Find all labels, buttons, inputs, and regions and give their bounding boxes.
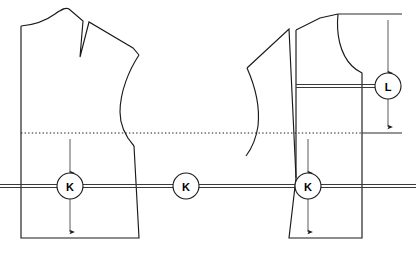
right-bodice-rotated-armhole-curve: [246, 68, 258, 156]
left-bodice-armhole-curve: [120, 55, 139, 146]
right-bodice-upper-outline: [296, 14, 338, 178]
callout-label-k-center: K: [182, 181, 190, 193]
left-bodice-upper-outline: [21, 8, 139, 133]
left-bodice-piece: [21, 8, 139, 238]
callout-l-right[interactable]: L: [375, 73, 401, 99]
callout-k-center[interactable]: K: [173, 173, 199, 199]
l-leader-line: [296, 85, 375, 88]
callout-k-left[interactable]: K: [57, 173, 83, 199]
callout-label-l-right: L: [385, 81, 392, 93]
callout-label-k-right: K: [304, 181, 312, 193]
callout-k-right[interactable]: K: [295, 173, 321, 199]
right-bodice-piece: [246, 14, 362, 238]
pattern-diagram-canvas: K K K L: [0, 0, 416, 255]
pattern-diagram-root: K K K L: [0, 0, 416, 255]
callout-label-k-left: K: [66, 181, 74, 193]
right-bodice-armhole-curve: [338, 14, 362, 133]
right-bodice-rotated-dart-wedge: [247, 29, 296, 178]
